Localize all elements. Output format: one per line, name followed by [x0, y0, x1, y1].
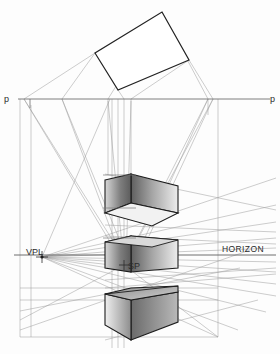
- label-station-point: SP: [128, 261, 140, 271]
- label-picture-plane-right: p: [270, 94, 275, 104]
- label-horizon: HORIZON: [222, 244, 264, 254]
- perspective-construction-diagram: p p VPL SP HORIZON: [0, 0, 280, 354]
- vertical-measure-lines: [108, 99, 208, 178]
- label-vanishing-point-left: VPL: [26, 247, 43, 257]
- perspective-box-lower: [105, 286, 178, 340]
- label-picture-plane-left: p: [4, 94, 9, 104]
- picture-plane-line: [18, 99, 270, 108]
- diagram-canvas: p p VPL SP HORIZON: [0, 0, 280, 354]
- lower-box-left-face: [105, 294, 131, 340]
- perspective-box-upper: [103, 174, 178, 226]
- perspective-box-middle: [103, 236, 178, 272]
- plan-rectangle: [95, 12, 189, 90]
